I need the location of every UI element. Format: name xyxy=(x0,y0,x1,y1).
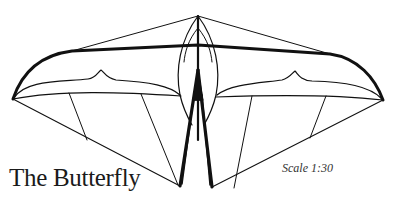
rib-right-inner xyxy=(234,96,252,188)
sail-curve-left xyxy=(14,70,180,98)
tail-leg-right-inner xyxy=(202,95,210,185)
sail-curve-right xyxy=(217,71,382,99)
diagram-title: The Butterfly xyxy=(9,164,140,192)
scale-label: Scale 1:30 xyxy=(282,161,333,176)
trailing-edge-left xyxy=(13,93,181,99)
rib-right-outer xyxy=(310,96,326,138)
trailing-edge-right xyxy=(216,95,383,100)
rib-left-inner xyxy=(141,94,178,185)
